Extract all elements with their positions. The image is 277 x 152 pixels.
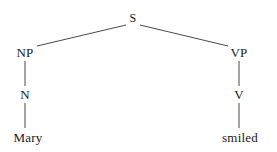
tree-node-mary: Mary bbox=[14, 131, 43, 144]
tree-edge-s-to-np bbox=[37, 25, 126, 46]
tree-edge-s-to-vp bbox=[140, 25, 228, 46]
tree-node-smiled: smiled bbox=[222, 131, 258, 144]
tree-node-n: N bbox=[20, 88, 30, 101]
syntax-tree-diagram: SNPVPNVMarysmiled bbox=[0, 0, 277, 152]
tree-node-vp: VP bbox=[230, 46, 247, 59]
tree-node-np: NP bbox=[16, 46, 33, 59]
tree-node-v: V bbox=[234, 88, 244, 101]
tree-node-s: S bbox=[130, 12, 137, 24]
